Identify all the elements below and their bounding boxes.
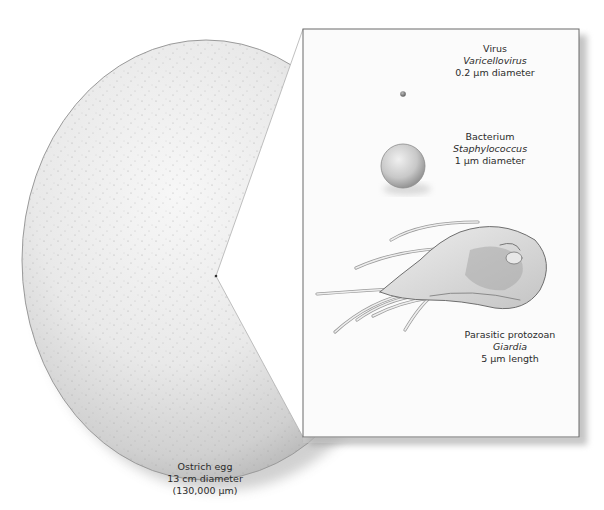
bacterium-genus: Staphylococcus: [420, 143, 560, 155]
bacterium-category: Bacterium: [420, 131, 560, 143]
protozoan-category: Parasitic protozoan: [445, 329, 575, 341]
egg-label: Ostrich egg 13 cm diameter (130,000 µm): [150, 461, 260, 497]
protozoan-size: 5 µm length: [445, 353, 575, 365]
protozoan-genus: Giardia: [445, 341, 575, 353]
bacterium-label: Bacterium Staphylococcus 1 µm diameter: [420, 131, 560, 167]
panel-bottom-shade: [303, 437, 583, 443]
egg-name: Ostrich egg: [150, 461, 260, 473]
virus-category: Virus: [445, 43, 545, 55]
bacterium-size: 1 µm diameter: [420, 155, 560, 167]
virus-genus: Varicellovirus: [445, 55, 545, 67]
scale-point-marker: [215, 275, 218, 278]
protozoan-label: Parasitic protozoan Giardia 5 µm length: [445, 329, 575, 365]
inset-panel: [303, 29, 579, 437]
virus-size: 0.2 µm diameter: [445, 67, 545, 79]
virus-illustration: [400, 91, 406, 97]
egg-size-um: (130,000 µm): [150, 485, 260, 497]
egg-size: 13 cm diameter: [150, 473, 260, 485]
virus-label: Virus Varicellovirus 0.2 µm diameter: [445, 43, 545, 79]
